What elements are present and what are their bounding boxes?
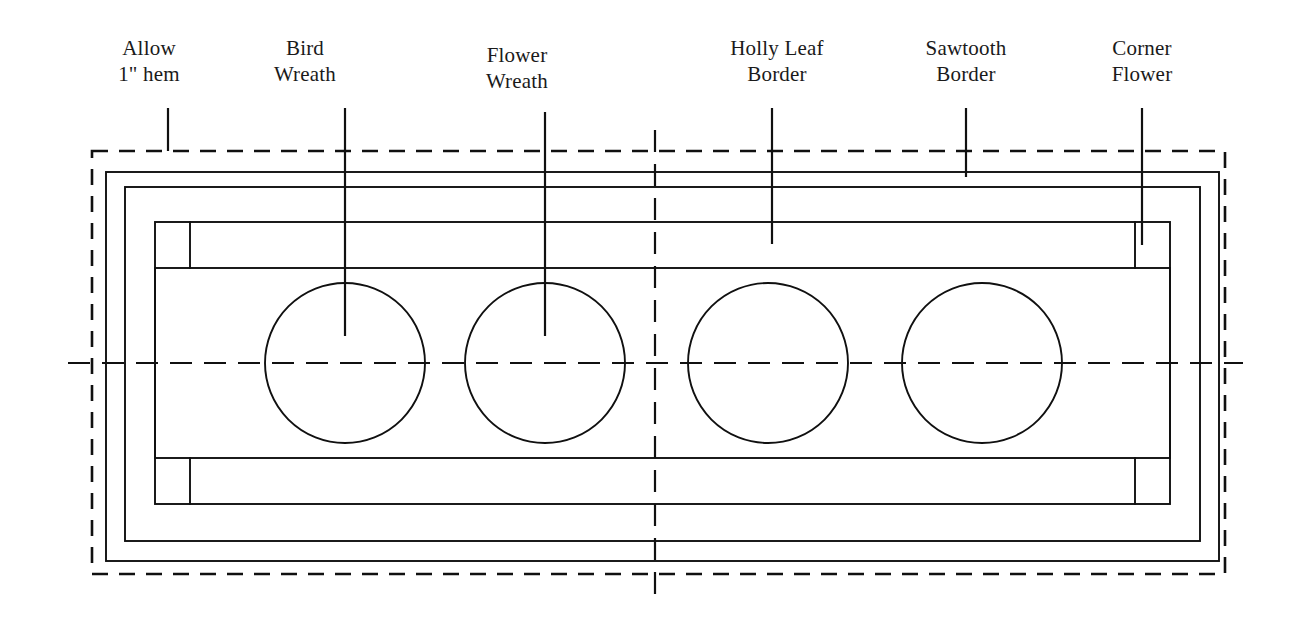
label-bird-wreath-line2: Wreath [274,62,336,86]
label-sawtooth-border-line1: Sawtooth [926,36,1007,60]
quilt-layout-diagram: Allow1" hemBirdWreathFlowerWreathHolly L… [0,0,1310,619]
label-sawtooth-border-line2: Border [936,62,996,86]
label-flower-wreath-line1: Flower [487,43,548,67]
label-flower-wreath-line2: Wreath [486,69,548,93]
label-holly-leaf-border-line1: Holly Leaf [730,36,824,60]
label-corner-flower-line2: Flower [1112,62,1173,86]
label-bird-wreath-line1: Bird [286,36,324,60]
label-holly-leaf-border-line2: Border [747,62,807,86]
label-allow-hem-line2: 1" hem [118,62,180,86]
diagram-canvas: Allow1" hemBirdWreathFlowerWreathHolly L… [0,0,1310,619]
label-allow-hem-line1: Allow [122,36,176,60]
label-corner-flower-line1: Corner [1112,36,1172,60]
